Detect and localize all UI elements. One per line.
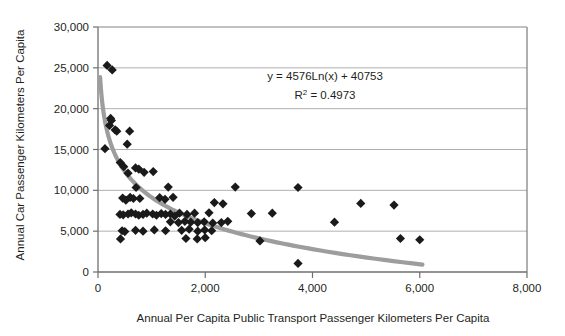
scatter-chart: 02,0004,0006,0008,000 05,00010,00015,000… — [0, 0, 565, 336]
x-tick-label: 8,000 — [513, 282, 542, 294]
x-axis-title: Annual Per Capita Public Transport Passe… — [137, 312, 490, 324]
x-tick-label: 2,000 — [191, 282, 220, 294]
chart-background — [0, 0, 565, 336]
y-tick-label: 10,000 — [54, 184, 89, 196]
r-squared-label: R — [294, 89, 302, 101]
y-tick-label: 15,000 — [54, 144, 89, 156]
x-tick-label: 6,000 — [405, 282, 434, 294]
y-tick-label: 5,000 — [60, 225, 89, 237]
y-tick-label: 30,000 — [54, 21, 89, 33]
r-squared-value: = 0.4973 — [307, 89, 355, 101]
x-tick-label: 4,000 — [298, 282, 327, 294]
y-tick-label: 0 — [83, 266, 89, 278]
x-tick-label: 0 — [95, 282, 101, 294]
chart-canvas: 02,0004,0006,0008,000 05,00010,00015,000… — [0, 0, 565, 336]
y-tick-label: 20,000 — [54, 103, 89, 115]
y-axis-title: Annual Car Passenger Kilometers Per Capi… — [14, 29, 26, 260]
y-tick-label: 25,000 — [54, 62, 89, 74]
equation-text: y = 4576Ln(x) + 40753 — [267, 70, 383, 82]
